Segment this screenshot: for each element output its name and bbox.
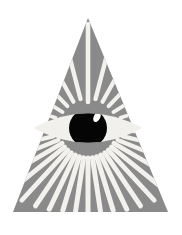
pupil	[69, 109, 107, 147]
iris-group	[69, 109, 107, 147]
eye-of-providence-illustration: Eye of Providence	[0, 0, 182, 235]
illustration-canvas: Eye of Providence	[0, 0, 182, 235]
